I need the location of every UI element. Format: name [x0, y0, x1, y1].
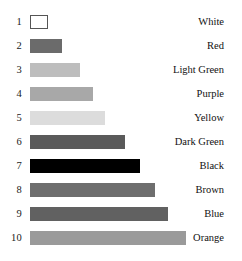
row-rank-number: 2: [0, 38, 22, 54]
row-rank-number: 3: [0, 62, 22, 78]
chart-row: 2Red: [0, 38, 242, 54]
row-color-label: Blue: [204, 206, 224, 222]
row-color-label: Black: [200, 158, 225, 174]
chart-row: 3Light Green: [0, 62, 242, 78]
row-color-label: Red: [207, 38, 224, 54]
row-color-label: Orange: [193, 230, 224, 246]
chart-row: 6Dark Green: [0, 134, 242, 150]
row-rank-number: 5: [0, 110, 22, 126]
bar-brown: [30, 183, 155, 197]
bar-dark-green: [30, 135, 125, 149]
chart-row: 7Black: [0, 158, 242, 174]
bar-white: [30, 15, 48, 29]
bar-black: [30, 159, 140, 173]
chart-row: 9Blue: [0, 206, 242, 222]
bar-red: [30, 39, 62, 53]
bar-yellow: [30, 111, 105, 125]
row-rank-number: 7: [0, 158, 22, 174]
row-color-label: Brown: [195, 182, 224, 198]
row-rank-number: 4: [0, 86, 22, 102]
row-rank-number: 1: [0, 14, 22, 30]
bar-light-green: [30, 63, 80, 77]
bar-orange: [30, 231, 186, 245]
chart-row: 8Brown: [0, 182, 242, 198]
color-ranking-bar-chart: 1White2Red3Light Green4Purple5Yellow6Dar…: [0, 0, 242, 261]
chart-row: 5Yellow: [0, 110, 242, 126]
row-rank-number: 10: [0, 230, 22, 246]
chart-row: 10Orange: [0, 230, 242, 246]
bar-blue: [30, 207, 168, 221]
chart-row: 1White: [0, 14, 242, 30]
row-rank-number: 6: [0, 134, 22, 150]
row-color-label: Yellow: [194, 110, 224, 126]
row-rank-number: 9: [0, 206, 22, 222]
bar-purple: [30, 87, 93, 101]
row-color-label: White: [198, 14, 224, 30]
row-color-label: Purple: [197, 86, 224, 102]
row-color-label: Dark Green: [175, 134, 224, 150]
row-rank-number: 8: [0, 182, 22, 198]
chart-row: 4Purple: [0, 86, 242, 102]
row-color-label: Light Green: [173, 62, 224, 78]
